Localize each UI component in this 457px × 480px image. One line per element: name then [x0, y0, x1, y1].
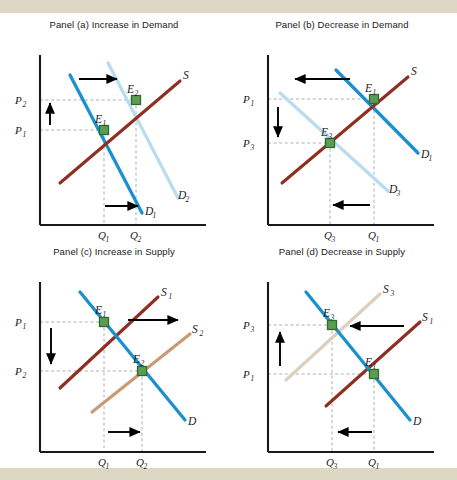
panel-c-curvelabel-S1: S	[161, 286, 167, 298]
panel-c-curvelabel-D: D	[187, 415, 197, 427]
panel-c-curvelabel-S2-sub: 2	[200, 329, 204, 338]
panel-b-label-P3-sub: 3	[250, 143, 255, 152]
panel-b-curvelabel-D1-sub: 1	[429, 154, 433, 163]
panel-d: Panel (d) Decrease in Supply	[228, 240, 456, 480]
panel-b-curvelabel-S: S	[411, 65, 417, 77]
panel-b-eqlabel-E3-sub: 3	[328, 132, 333, 141]
panel-d-eqlabel-E3: E	[322, 307, 330, 319]
panel-d-curvelabel-S1: S	[422, 311, 428, 323]
panel-d-curve-D	[306, 292, 410, 420]
panel-c-label-P2: P	[14, 365, 22, 377]
panel-d-eqlabel-E1-sub: 1	[373, 362, 377, 371]
panel-c-curvelabel-S2: S	[192, 323, 198, 335]
panel-d-curvelabel-S3-sub: 3	[390, 289, 395, 298]
panel-c-plot: P 1 P 2 Q 1 Q 2 S 1 S 2 D E 1 E 2	[0, 240, 228, 480]
panel-c-eqlabel-E2: E	[132, 353, 140, 365]
panel-b: Panel (b) Decrease in Demand	[228, 13, 456, 253]
panel-b-axes	[268, 55, 434, 225]
panel-d-curvelabel-S1-sub: 1	[430, 317, 434, 326]
panel-a-curvelabel-D2-sub: 2	[186, 195, 190, 204]
panel-d-label-P3: P	[242, 319, 250, 331]
panel-d-label-P1-sub: 1	[251, 374, 255, 383]
top-decorative-band	[0, 0, 457, 13]
panel-d-label-Q1-sub: 1	[376, 462, 380, 471]
panel-d-curvelabel-S3: S	[383, 283, 389, 295]
panel-c-eqlabel-E1-sub: 1	[103, 310, 107, 319]
panel-b-curve-S	[282, 77, 408, 183]
panel-c-axes	[40, 282, 206, 452]
panel-a: Panel (a) Increase in Demand	[0, 13, 228, 253]
panel-a-plot: P 2 P 1 Q 1 Q 2 S D 1 D 2 E 1 E 2	[0, 13, 228, 253]
panel-d-plot: P 3 P 1 Q 3 Q 1 S 3 S 1 D E 3 E 1	[228, 240, 456, 480]
panel-b-plot: P 1 P 3 Q 3 Q 1 S D 1 D 3 E 1 E 3	[228, 13, 456, 253]
panel-c: Panel (c) Increase in Supply	[0, 240, 228, 480]
panel-d-axes	[268, 282, 434, 452]
panel-b-curvelabel-D3-sub: 3	[396, 189, 401, 198]
panel-c-label-Q2-sub: 2	[144, 462, 148, 471]
panel-a-eqlabel-E1: E	[94, 113, 102, 125]
panel-c-label-Q1-sub: 1	[106, 462, 110, 471]
panel-d-label-Q3-sub: 3	[333, 462, 338, 471]
panel-a-curvelabel-D1-sub: 1	[153, 211, 157, 220]
panel-b-eqlabel-E1: E	[364, 82, 372, 94]
panel-d-label-P1: P	[242, 368, 250, 380]
panel-a-curve-D2	[108, 63, 178, 198]
panel-b-eqlabel-E3: E	[320, 126, 328, 138]
panel-a-label-P2: P	[14, 94, 22, 106]
panel-b-curve-D1	[336, 70, 418, 153]
panel-d-curvelabel-D: D	[412, 415, 422, 427]
panel-c-label-P1: P	[14, 316, 22, 328]
panel-c-eqlabel-E1: E	[94, 304, 102, 316]
panel-a-label-P2-sub: 2	[23, 100, 27, 109]
panel-d-label-P3-sub: 3	[250, 325, 255, 334]
panel-b-label-P1: P	[242, 93, 250, 105]
panel-a-curvelabel-S: S	[183, 69, 189, 81]
panel-c-label-P1-sub: 1	[23, 322, 27, 331]
panel-b-label-P1-sub: 1	[251, 99, 255, 108]
panel-a-eqlabel-E2: E	[126, 83, 134, 95]
panel-a-eqlabel-E2-sub: 2	[135, 89, 139, 98]
panel-d-eqlabel-E3-sub: 3	[330, 313, 335, 322]
panel-a-eqlabel-E1-sub: 1	[103, 119, 107, 128]
panel-d-guidelines	[268, 325, 374, 452]
panel-a-label-P1-sub: 1	[23, 130, 27, 139]
panel-c-eqlabel-E2-sub: 2	[141, 359, 145, 368]
panel-b-label-P3: P	[242, 137, 250, 149]
panel-c-curvelabel-S1-sub: 1	[169, 292, 173, 301]
figure-sheet: Panel (a) Increase in Demand	[0, 13, 457, 468]
panel-a-label-P1: P	[14, 124, 22, 136]
panel-b-eqlabel-E1-sub: 1	[373, 88, 377, 97]
panel-c-label-P2-sub: 2	[23, 371, 27, 380]
panel-d-eqlabel-E1: E	[364, 356, 372, 368]
